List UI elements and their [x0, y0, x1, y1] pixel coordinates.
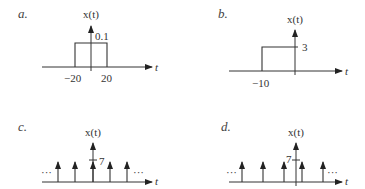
panel-a-amplitude: 0.1 — [95, 30, 109, 42]
panel-a: a. x(t) t 0.1 −20 20 — [18, 6, 159, 84]
panel-b-tick-neg10: −10 — [252, 77, 270, 89]
panel-c-xlabel: t — [155, 175, 159, 187]
panel-d-amplitude: 7 — [286, 153, 292, 165]
panel-b-amplitude: 3 — [302, 41, 308, 53]
panel-b-label: b. — [218, 6, 228, 21]
panel-d-xlabel: t — [345, 175, 349, 187]
signals-figure: a. x(t) t 0.1 −20 20 b. x(t) t 3 −10 c. … — [0, 0, 365, 189]
panel-d-ylabel: x(t) — [288, 126, 304, 139]
panel-d-ellipsis-right: ··· — [327, 166, 338, 178]
panel-c: c. x(t) t 7 ··· ··· — [18, 119, 159, 187]
panel-b: b. x(t) t 3 −10 — [218, 6, 349, 89]
panel-b-rect-pulse — [262, 47, 298, 71]
panel-c-ellipsis-left: ··· — [41, 166, 52, 178]
panel-c-ellipsis-right: ··· — [133, 166, 144, 178]
panel-d-label: d. — [221, 119, 231, 134]
panel-a-tick-neg20: −20 — [64, 72, 82, 84]
panel-d-ellipsis-left: ··· — [226, 166, 237, 178]
panel-b-xlabel: t — [345, 65, 349, 77]
panel-d-impulse-train — [242, 162, 323, 182]
panel-b-ylabel: x(t) — [287, 13, 303, 26]
panel-c-impulse-train — [58, 162, 127, 182]
panel-a-label: a. — [18, 6, 28, 21]
panel-a-xlabel: t — [155, 61, 159, 73]
panel-c-amplitude: 7 — [99, 155, 105, 167]
panel-c-label: c. — [18, 119, 27, 134]
panel-a-ylabel: x(t) — [83, 8, 99, 21]
panel-d: d. x(t) t 7 ··· ··· — [221, 119, 349, 187]
panel-a-tick-20: 20 — [101, 72, 113, 84]
panel-c-ylabel: x(t) — [85, 126, 101, 139]
